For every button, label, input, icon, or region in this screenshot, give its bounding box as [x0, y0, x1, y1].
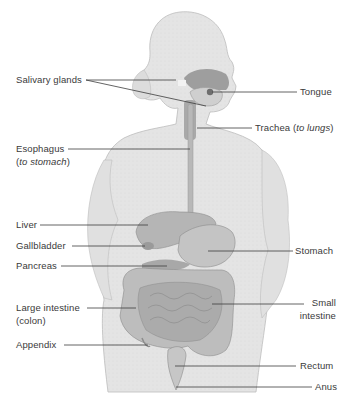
label-small-intestine-1: Small [296, 297, 336, 309]
label-trachea: Trachea (to lungs) [255, 122, 334, 134]
label-appendix: Appendix [16, 339, 56, 351]
small-intestine-shape [138, 282, 222, 341]
label-esophagus-sub: (to stomach) [16, 156, 70, 168]
label-stomach: Stomach [295, 245, 333, 257]
label-tongue: Tongue [300, 86, 332, 98]
digestive-system-diagram: Salivary glands Tongue Trachea (to lungs… [0, 0, 349, 404]
label-esophagus: Esophagus [16, 143, 64, 155]
label-gallbladder: Gallbladder [16, 240, 66, 252]
label-large-intestine: Large intestine [16, 302, 80, 314]
label-salivary-glands: Salivary glands [16, 74, 82, 86]
label-rectum: Rectum [300, 360, 333, 372]
label-anus: Anus [315, 381, 337, 393]
label-small-intestine-2: intestine [290, 310, 336, 322]
label-liver: Liver [16, 219, 37, 231]
label-colon: (colon) [16, 315, 46, 327]
label-pancreas: Pancreas [16, 260, 57, 272]
